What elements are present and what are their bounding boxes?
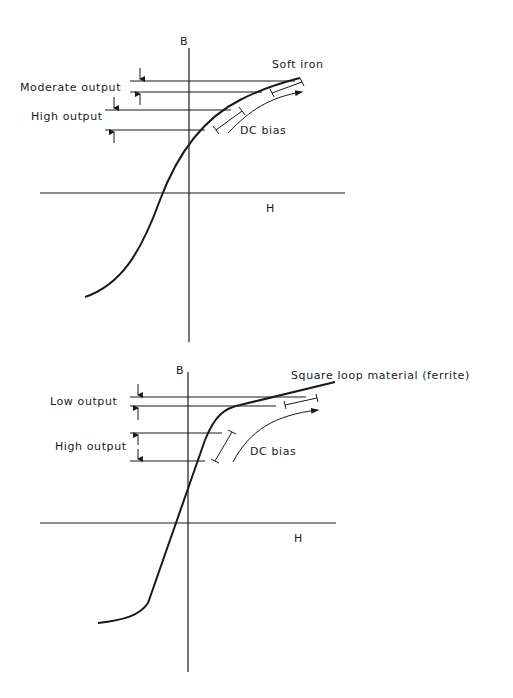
h-axis-label: H bbox=[266, 202, 275, 215]
moderate-output-label: Moderate output bbox=[20, 81, 121, 94]
dc-bias-label: DC bias bbox=[250, 445, 296, 458]
bh-curve-ferrite bbox=[98, 382, 335, 623]
swing-bracket-high bbox=[211, 430, 236, 463]
soft-iron-diagram: B H Moderate output High output DC b bbox=[20, 35, 345, 342]
bh-curve-soft-iron bbox=[85, 78, 300, 297]
dc-bias-label: DC bias bbox=[240, 124, 286, 137]
ferrite-diagram: B H Low output High output DC bias Squar… bbox=[40, 364, 470, 672]
swing-bracket-low bbox=[284, 394, 318, 409]
h-axis-label: H bbox=[294, 532, 303, 545]
material-label-soft-iron: Soft iron bbox=[272, 58, 324, 71]
b-axis-label: B bbox=[180, 35, 188, 48]
material-label-ferrite: Square loop material (ferrite) bbox=[291, 369, 470, 382]
high-output-label: High output bbox=[31, 110, 103, 123]
low-output-label: Low output bbox=[50, 395, 118, 408]
b-axis-label: B bbox=[176, 364, 184, 377]
high-output-label: High output bbox=[55, 440, 127, 453]
magnetization-diagrams: B H Moderate output High output DC b bbox=[0, 0, 513, 698]
